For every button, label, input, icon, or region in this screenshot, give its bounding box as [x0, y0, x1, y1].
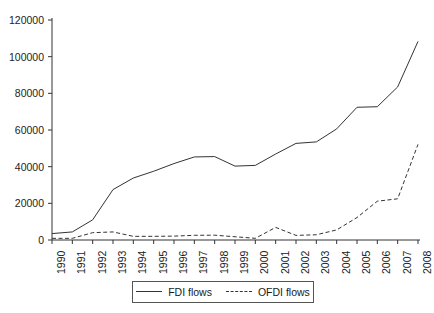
legend-item: FDI flows: [136, 286, 212, 298]
x-tick-label: 1999: [239, 251, 250, 274]
x-tick-label: 2003: [320, 251, 331, 274]
y-tick-label: 20000: [15, 198, 44, 209]
y-tick-label: 100000: [9, 52, 44, 63]
y-tick-marks: [48, 20, 52, 240]
dashed-line-icon: [226, 291, 252, 293]
x-tick-label: 2007: [402, 251, 413, 274]
legend-item-label: OFDI flows: [258, 286, 310, 298]
legend-item-label: FDI flows: [168, 286, 212, 298]
solid-line-icon: [136, 291, 162, 293]
line-chart: 020000400006000080000100000120000 199019…: [0, 0, 434, 313]
series-line: [52, 144, 418, 238]
x-tick-label: 1990: [56, 251, 67, 274]
x-tick-label: 2008: [422, 251, 433, 274]
x-tick-marks: [52, 240, 418, 244]
x-tick-label: 1995: [158, 251, 169, 274]
x-tick-label: 1993: [117, 251, 128, 274]
x-tick-label: 2001: [280, 251, 291, 274]
y-tick-label: 0: [38, 235, 44, 246]
y-tick-label: 120000: [9, 15, 44, 26]
x-tick-label: 2006: [381, 251, 392, 274]
x-tick-label: 1991: [76, 251, 87, 274]
x-tick-label: 1996: [178, 251, 189, 274]
x-tick-label: 1998: [219, 251, 230, 274]
x-tick-label: 1992: [97, 251, 108, 274]
legend-item: OFDI flows: [226, 286, 310, 298]
x-tick-label: 2002: [300, 251, 311, 274]
x-tick-label: 2004: [341, 251, 352, 274]
x-tick-label: 1997: [198, 251, 209, 274]
x-tick-label: 2005: [361, 251, 372, 274]
chart-legend: FDI flowsOFDI flows: [132, 281, 314, 303]
y-tick-label: 60000: [15, 125, 44, 136]
x-tick-label: 1994: [137, 251, 148, 274]
series-line: [52, 41, 418, 233]
y-tick-label: 40000: [15, 162, 44, 173]
axis-lines: [52, 18, 420, 240]
data-series-lines: [52, 41, 418, 238]
y-tick-label: 80000: [15, 88, 44, 99]
x-tick-label: 2000: [259, 251, 270, 274]
